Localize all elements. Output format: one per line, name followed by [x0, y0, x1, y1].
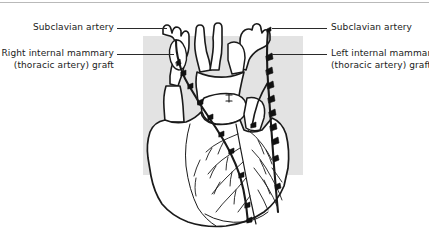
label-subclavian-artery-left-side: Subclavian artery — [331, 22, 429, 34]
label-left-internal-mammary-graft: Left internal mammary (thoracic artery) … — [331, 48, 429, 71]
leader-line-right-top — [272, 28, 327, 29]
label-line-1: Subclavian artery — [331, 22, 429, 34]
label-line-1: Subclavian artery — [0, 22, 114, 34]
label-right-internal-mammary-graft: Right internal mammary (thoracic artery)… — [0, 48, 114, 71]
leader-line-left-top — [117, 28, 167, 29]
label-line-2: (thoracic artery) graft — [331, 60, 429, 72]
label-line-1: Right internal mammary — [0, 48, 114, 60]
label-line-2: (thoracic artery) graft — [0, 60, 114, 72]
label-subclavian-artery-right-side: Subclavian artery — [0, 22, 114, 34]
leader-line-right-bottom — [272, 54, 327, 55]
heart-bypass-graft-diagram: Subclavian artery Right internal mammary… — [0, 0, 429, 240]
label-line-1: Left internal mammary — [331, 48, 429, 60]
heart-illustration — [0, 0, 429, 240]
leader-line-left-bottom — [117, 54, 174, 55]
